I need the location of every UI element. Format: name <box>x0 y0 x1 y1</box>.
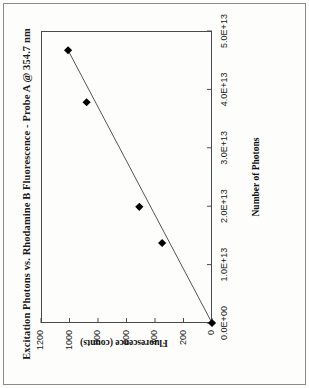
y-axis-ticks <box>41 318 212 323</box>
y-tick-label: 0 <box>206 330 216 364</box>
x-tick-label: 0.0E+00 <box>219 300 229 346</box>
x-tick-label: 5.0E+13 <box>219 8 229 54</box>
plot-area <box>41 31 212 323</box>
y-axis-title: Fluorescence (counts) <box>59 338 189 348</box>
chart-title: Excitation Photons vs. Rhodamine B Fluor… <box>21 16 32 372</box>
x-tick-label: 2.0E+13 <box>219 183 229 229</box>
x-tick-label: 1.0E+13 <box>219 242 229 288</box>
x-axis-title: Number of Photons <box>251 31 261 323</box>
chart-canvas: Excitation Photons vs. Rhodamine B Fluor… <box>19 16 291 372</box>
scanned-figure-page: Excitation Photons vs. Rhodamine B Fluor… <box>0 0 309 388</box>
trendline <box>68 50 212 323</box>
x-axis-ticks <box>207 31 212 323</box>
x-tick-label: 4.0E+13 <box>219 66 229 112</box>
rotated-chart-wrapper: Excitation Photons vs. Rhodamine B Fluor… <box>0 0 309 388</box>
y-tick-label: 1200 <box>35 330 45 364</box>
x-tick-label: 3.0E+13 <box>219 125 229 171</box>
